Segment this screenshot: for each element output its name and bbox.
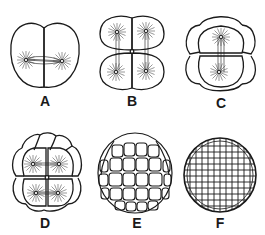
panel-e-drawing	[98, 133, 172, 213]
panel-label-d: D	[30, 216, 60, 230]
panel-label-a: A	[30, 94, 60, 108]
panel-b-drawing	[100, 16, 164, 89]
panel-label-f: F	[205, 216, 235, 230]
cleavage-diagram: A B C D E F	[0, 0, 265, 235]
diagram-drawing	[0, 0, 265, 235]
panel-d-drawing	[13, 133, 82, 211]
panel-label-c: C	[206, 96, 236, 110]
panel-label-b: B	[117, 94, 147, 108]
panel-a-drawing	[11, 23, 79, 87]
panel-label-e: E	[122, 216, 152, 230]
panel-c-drawing	[186, 17, 255, 91]
panel-f-drawing	[180, 135, 260, 215]
